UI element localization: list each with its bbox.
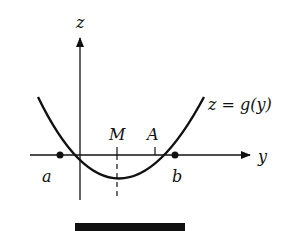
root-label-b: b — [172, 167, 182, 186]
diagram-canvas: z y z = g(y) a b M A — [0, 0, 290, 231]
z-axis-label: z — [75, 13, 85, 32]
y-axis-label: y — [257, 147, 268, 166]
root-point-a — [57, 152, 64, 159]
point-a-label: A — [145, 125, 159, 144]
curve-label: z = g(y) — [207, 95, 272, 114]
root-point-b — [172, 152, 179, 159]
midpoint-label: M — [108, 125, 126, 144]
redaction-bar — [75, 223, 185, 231]
root-label-a: a — [42, 167, 52, 186]
